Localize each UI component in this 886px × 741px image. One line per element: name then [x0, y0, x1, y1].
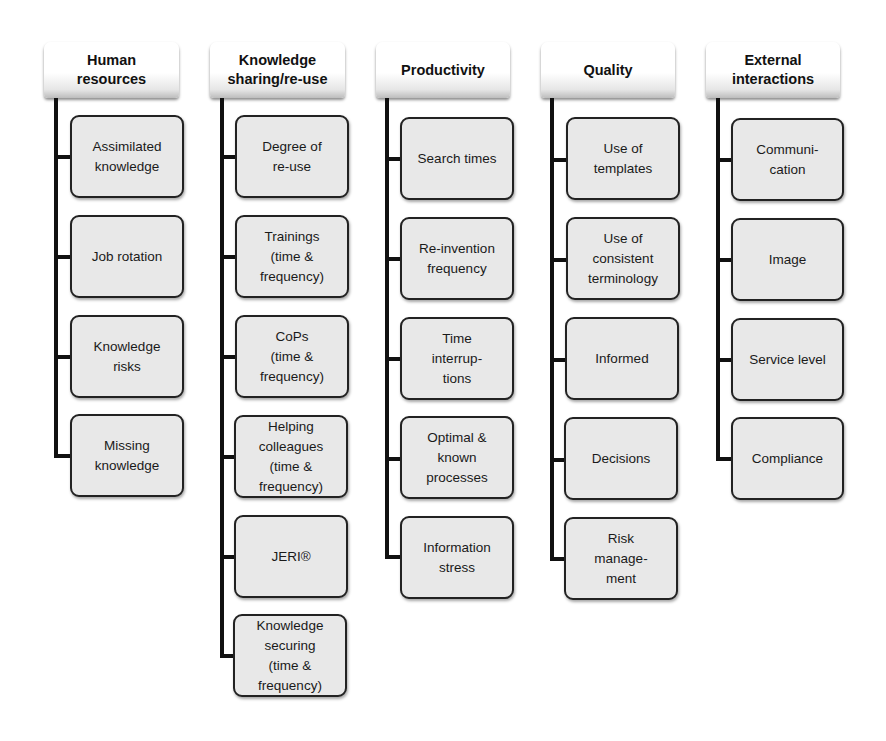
node-box: Optimal & known processes [400, 416, 514, 499]
connector-branch [220, 255, 236, 259]
node-box: CoPs (time & frequency) [235, 315, 349, 398]
node-box: Job rotation [70, 215, 184, 298]
connector-line [550, 98, 554, 560]
connector-branch [220, 155, 236, 159]
connector-branch [220, 355, 236, 359]
node-box: JERI® [234, 515, 348, 598]
node-box: Helping colleagues (time & frequency) [234, 415, 348, 498]
column-header: External interactions [706, 42, 840, 98]
node-box: Use of consistent terminology [566, 217, 680, 300]
column-header: Quality [541, 42, 675, 98]
connector-branch [550, 158, 567, 162]
connector-branch [54, 155, 71, 159]
connector-line [220, 98, 224, 656]
node-box: Risk manage- ment [564, 517, 678, 600]
node-box: Decisions [564, 417, 678, 500]
column-header: Knowledge sharing/re-use [210, 42, 345, 98]
connector-line [54, 98, 58, 456]
node-box: Use of templates [566, 117, 680, 200]
node-box: Search times [400, 117, 514, 200]
node-box: Communi- cation [731, 118, 844, 201]
node-box: Information stress [400, 516, 514, 599]
node-box: Knowledge risks [70, 315, 184, 398]
node-box: Trainings (time & frequency) [235, 215, 349, 298]
node-box: Degree of re-use [235, 115, 349, 198]
node-box: Missing knowledge [70, 414, 184, 497]
node-box: Compliance [731, 417, 844, 500]
connector-line [716, 98, 720, 460]
connector-branch [54, 255, 71, 259]
connector-line [385, 98, 389, 558]
node-box: Time interrup- tions [400, 317, 514, 400]
connector-branch [550, 258, 567, 262]
node-box: Knowledge securing (time & frequency) [233, 614, 347, 697]
column-header: Productivity [376, 42, 510, 98]
column-header: Human resources [44, 42, 179, 98]
node-box: Assimilated knowledge [70, 115, 184, 198]
node-box: Informed [565, 317, 679, 400]
node-box: Re-invention frequency [400, 217, 514, 300]
connector-branch [54, 355, 71, 359]
connector-branch [54, 454, 71, 458]
node-box: Service level [731, 318, 844, 401]
node-box: Image [731, 218, 844, 301]
